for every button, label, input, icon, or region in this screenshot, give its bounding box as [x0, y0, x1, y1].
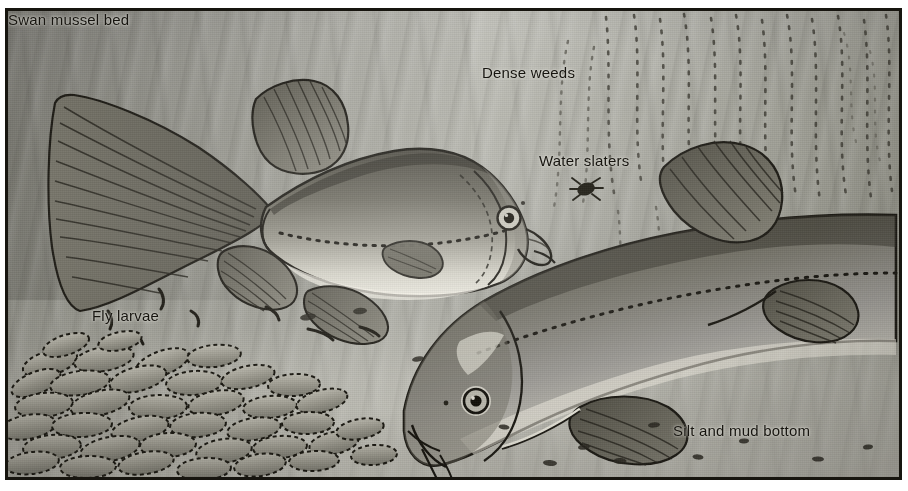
illustration-plate: Dense weeds Water slaters Fly larvae Swa…: [0, 0, 908, 491]
label-water-slaters: Water slaters: [539, 152, 629, 169]
plate-frame: Dense weeds Water slaters Fly larvae Swa…: [5, 8, 902, 480]
plate-vignette: [8, 11, 899, 477]
label-dense-weeds: Dense weeds: [482, 64, 575, 81]
label-swan-mussel-bed: Swan mussel bed: [8, 11, 129, 28]
plate-canvas: Dense weeds Water slaters Fly larvae Swa…: [8, 11, 899, 477]
label-fly-larvae: Fly larvae: [92, 307, 159, 324]
label-silt-and-mud-bottom: Silt and mud bottom: [673, 422, 810, 439]
